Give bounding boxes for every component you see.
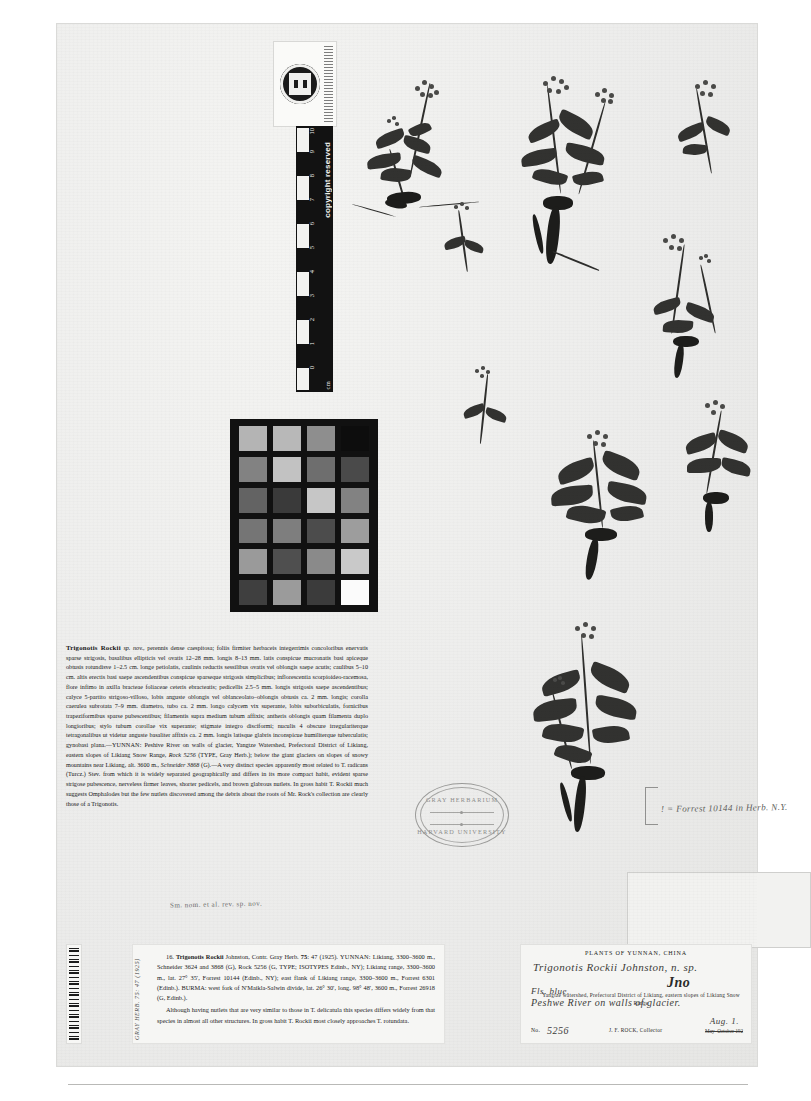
specimen-upper-center [487,54,657,334]
collection-label-header: PLANTS OF YUNNAN, CHINA [528,950,744,956]
protologue-taxon-name: Trigonotis Rockii [66,644,121,651]
citation-label: 16. Trigonotis Rockii Johnston, Contr. G… [132,944,445,1044]
protologue-text-block: Trigonotis Rockii sp. nov., perennis den… [66,643,368,809]
specimen-left-mid-sprig [432,194,512,304]
tick-7: 7 [309,198,316,201]
grayscale-patch-4 [239,457,267,482]
protologue-collection-2: Schneider 3868 [161,762,200,768]
grayscale-patch-19 [341,549,369,574]
citation-taxon: Trigonotis Rockii [176,953,223,960]
handwritten-date: Aug. 1. [710,1016,739,1026]
stamp-line-2: HARVARD UNIVERSITY [416,828,508,835]
citation-entry-number: 16. [166,953,174,960]
handwritten-initials: Jno [667,975,690,991]
tick-8: 8 [309,174,316,177]
grayscale-patch-16 [239,549,267,574]
harvard-seal-icon [280,64,320,104]
ruler-unit-label: cm [324,381,331,390]
institution-seal-card [273,41,337,127]
stamp-dot-1 [460,811,463,814]
citation-discussion: Although having nutlets that are very si… [157,1005,435,1026]
scale-ruler: 0 1 2 3 4 5 6 7 8 9 10 cm copyright rese… [296,126,333,392]
ruler-tick-labels: 0 1 2 3 4 5 6 7 8 9 10 [309,128,319,390]
tick-6: 6 [309,222,316,225]
specimen-lower-left-sprig [447,354,537,474]
grayscale-patch-20 [239,580,267,605]
printed-locality: Yangtze watershed, Prefectoral District … [539,992,743,1007]
tick-1: 1 [309,342,316,345]
page-bottom-rule [68,1084,748,1085]
ruler-checker-bars [297,128,309,390]
grayscale-patch-9 [273,488,301,513]
grayscale-patch-13 [273,519,301,544]
grayscale-patch-2 [307,426,335,451]
grayscale-patch-11 [341,488,369,513]
grayscale-patch-12 [239,519,267,544]
tick-2: 2 [309,318,316,321]
grayscale-patch-18 [307,549,335,574]
grayscale-patch-17 [273,549,301,574]
collection-label: PLANTS OF YUNNAN, CHINA Trigonotis Rocki… [520,944,752,1044]
specimen-right-lower [667,384,787,564]
herbarium-sheet: GRAY HERBARIUM HARVARD UNIVERSITY ! = Fo… [57,24,757,1066]
collection-number-prefix: No. [531,1027,540,1033]
grayscale-patch-23 [341,580,369,605]
collector-name: J. F. ROCK, Collector [609,1027,662,1033]
printed-date-range: May–October 192 [705,1028,743,1034]
grayscale-patch-0 [239,426,267,451]
accession-barcode [66,944,82,1044]
grayscale-patch-5 [273,457,301,482]
tick-4: 4 [309,270,316,273]
citation-region: YUNNAN: [340,953,371,960]
grayscale-patch-grid [239,426,369,605]
ruler-copyright-text: copyright reserved [323,142,332,218]
grayscale-patch-10 [307,488,335,513]
stamp-line-1: GRAY HERBARIUM [416,796,508,803]
grayscale-patch-15 [341,519,369,544]
grayscale-patch-1 [273,426,301,451]
citation-side-stamp: GRAY HERB. 75: 47 (1925) [134,952,145,1040]
citation-pages: : 47 (1925). [307,953,338,960]
gray-herbarium-stamp: GRAY HERBARIUM HARVARD UNIVERSITY [415,783,509,847]
determination-annotation: ! = Forrest 10144 in Herb. N.Y. [661,802,788,814]
blank-label-box [627,872,811,948]
citation-specimens: Likiang, 3300–3600 m., Schneider 3624 an… [157,953,435,1001]
specimen-lower-center [507,594,687,854]
grayscale-patch-7 [341,457,369,482]
tick-10: 10 [309,128,316,135]
protologue-description: perennis dense caespitosa; foliis firmit… [66,645,368,748]
annotation-bracket [645,787,658,825]
protologue-discussion: (G).—A very distinct species apparently … [66,762,368,807]
grayscale-patch-21 [273,580,301,605]
protologue-rank: sp. nov., [123,645,144,651]
tick-9: 9 [309,150,316,153]
grayscale-patch-22 [307,580,335,605]
grayscale-color-chart [230,419,378,612]
stamp-dot-2 [460,823,463,826]
tick-3: 3 [309,294,316,297]
protologue-collection-1: Rock 5256 [169,752,196,758]
barcode-bars [69,948,79,1040]
handwritten-taxon-name: Trigonotis Rockii Johnston, n. sp. [533,961,698,973]
grayscale-patch-6 [307,457,335,482]
citation-author: Johnston, Contr. Gray Herb. [224,953,301,960]
grayscale-patch-8 [239,488,267,513]
tick-5: 5 [309,246,316,249]
collection-number-value: 5256 [547,1025,569,1036]
protologue-region: YUNNAN: [112,742,142,748]
grayscale-patch-14 [307,519,335,544]
specimen-upper-right [657,64,767,204]
seal-card-fineprint [324,46,333,122]
tick-0: 0 [309,366,316,369]
grayscale-patch-3 [341,426,369,451]
